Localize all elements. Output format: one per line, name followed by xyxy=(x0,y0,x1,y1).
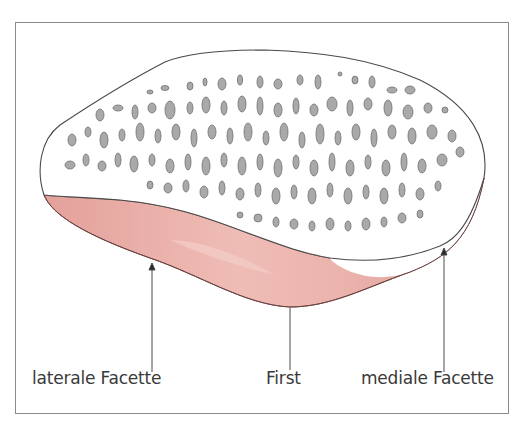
label-lateral-facet: laterale Facette xyxy=(32,368,161,388)
label-ridge: First xyxy=(266,368,301,388)
arrow-up-icon xyxy=(149,263,155,270)
label-medial-facet: mediale Facette xyxy=(361,368,494,388)
